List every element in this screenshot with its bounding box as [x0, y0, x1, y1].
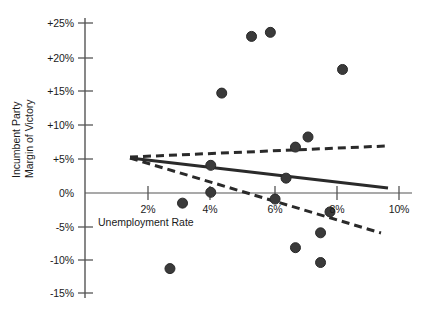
data-point: [165, 264, 175, 274]
x-tick-label-6: 6%: [268, 203, 283, 215]
y-axis-title-line2: Margin of Victory: [23, 99, 36, 178]
data-point: [290, 142, 300, 152]
y-tick-label-25: +25%: [28, 17, 74, 29]
data-point: [206, 187, 216, 197]
y-axis-title: Incumbent Party Margin of Victory: [10, 99, 35, 178]
data-point: [316, 228, 326, 238]
data-point: [265, 27, 275, 37]
scatter-chart: +25% +20% +15% +10% +5% 0% -5% -10% -15%…: [0, 0, 429, 318]
y-tick-label-15: +15%: [28, 85, 74, 97]
y-tick-label-0: 0%: [28, 187, 74, 199]
x-tick-label-10: 10%: [389, 203, 410, 215]
confidence-band-upper: [130, 146, 386, 157]
data-point: [316, 258, 326, 268]
y-tick-label-neg15: -15%: [28, 287, 74, 299]
data-point: [217, 88, 227, 98]
data-point-group: [165, 27, 348, 273]
data-point: [290, 243, 300, 253]
x-tick-label-8: 8%: [330, 203, 345, 215]
x-axis-title: Unemployment Rate: [98, 216, 194, 228]
data-point: [247, 31, 257, 41]
data-point: [281, 173, 291, 183]
x-tick-label-4: 4%: [203, 203, 218, 215]
y-tick-label-20: +20%: [28, 52, 74, 64]
data-point: [338, 64, 348, 74]
y-tick-label-neg5: -5%: [28, 221, 74, 233]
y-tick-label-neg10: -10%: [28, 254, 74, 266]
data-point: [206, 160, 216, 170]
data-point: [178, 198, 188, 208]
regression-fit-line: [130, 158, 388, 188]
data-point: [303, 132, 313, 142]
y-axis-title-line1: Incumbent Party: [10, 99, 23, 178]
x-tick-label-2: 2%: [141, 203, 156, 215]
